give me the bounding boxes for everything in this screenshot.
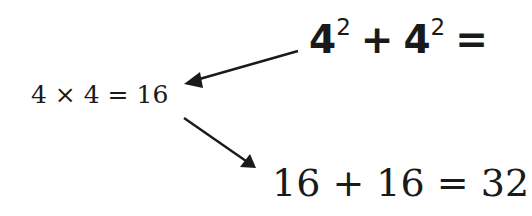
bottom-equation: 16 + 16 = 32 xyxy=(272,164,529,202)
arrow-top-to-left xyxy=(184,51,298,88)
exponent-2: 2 xyxy=(431,14,446,40)
diagram-canvas: 42+42= 4 × 4 = 16 16 + 16 = 32 xyxy=(0,0,532,216)
exponent-1: 2 xyxy=(336,14,351,40)
left-equation: 4 × 4 = 16 xyxy=(31,82,168,107)
top-equation: 42+42= xyxy=(309,20,488,59)
base-2: 4 xyxy=(403,17,430,62)
plus-operator: + xyxy=(361,17,394,62)
arrowhead-icon xyxy=(184,72,203,88)
arrowhead-icon xyxy=(240,154,256,168)
base-1: 4 xyxy=(309,17,336,62)
equals-sign: = xyxy=(455,17,488,62)
arrow-left-to-bottom xyxy=(184,118,256,168)
